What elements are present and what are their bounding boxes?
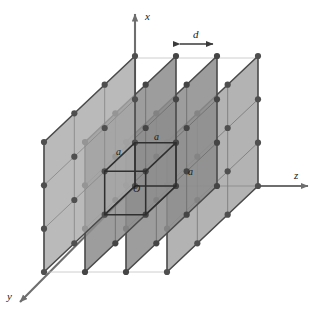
d-spacing-label: d (193, 28, 199, 40)
x-axis-label: x (144, 10, 150, 22)
lattice-planes-figure: x y z d O a a a (0, 0, 320, 317)
lattice-diagram-svg: x y z d O a a a (0, 0, 320, 317)
edge-label-a-2: a (154, 131, 159, 142)
edge-label-a-3: a (188, 166, 193, 177)
y-axis-label: y (6, 290, 12, 302)
edge-label-a-1: a (116, 146, 121, 157)
z-axis-label: z (293, 169, 299, 181)
origin-label: O (133, 183, 140, 194)
